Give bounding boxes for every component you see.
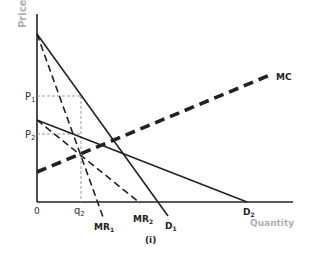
mc-label: MC xyxy=(276,72,292,82)
mc-curve xyxy=(37,75,270,172)
x-axis-label: Quantity xyxy=(250,218,294,228)
p2-label: P2 xyxy=(25,129,36,142)
mr2-curve xyxy=(37,120,140,203)
q2-label: q2 xyxy=(74,205,85,218)
p1-label: P1 xyxy=(25,91,36,104)
figure-caption: (i) xyxy=(145,235,156,245)
y-axis-label: Price xyxy=(17,0,28,28)
d1-label: D1 xyxy=(165,221,177,232)
price-quantity-diagram: Price P1 P2 0 q2 MC MR1 MR2 D1 D2 Quanti… xyxy=(0,0,309,256)
mr2-label: MR2 xyxy=(133,214,153,225)
mr1-label: MR1 xyxy=(94,222,114,233)
d2-label: D2 xyxy=(243,207,255,218)
mr1-curve xyxy=(37,34,103,217)
origin-label: 0 xyxy=(34,206,40,216)
d2-curve xyxy=(37,120,247,202)
